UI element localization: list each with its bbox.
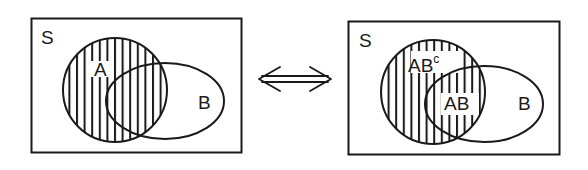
region-ab-label: AB (444, 93, 469, 114)
left-venn-panel: S A B (32, 19, 242, 153)
right-venn-panel: S ABc AB B (349, 22, 560, 155)
shaded-region-a (60, 36, 172, 146)
region-a-not-b-text: AB (408, 55, 433, 76)
set-b-label: B (198, 92, 211, 113)
set-a-label: A (94, 59, 107, 80)
venn-diagram-canvas: S A B S ABc AB B (0, 0, 588, 170)
universe-s-label: S (41, 27, 54, 48)
set-b-label: B (518, 93, 531, 114)
complement-superscript: c (433, 52, 439, 66)
equivalence-arrow-icon (259, 67, 331, 91)
universe-s-label: S (359, 30, 372, 51)
